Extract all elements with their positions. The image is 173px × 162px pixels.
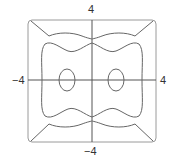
x-min-label: −4 [12, 75, 25, 86]
x-max-label: 4 [160, 75, 166, 86]
contour-plot [0, 0, 173, 162]
y-min-label: −4 [84, 146, 97, 157]
y-max-label: 4 [88, 4, 94, 15]
